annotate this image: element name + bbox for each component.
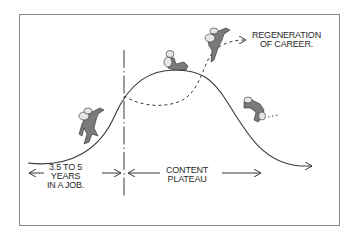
regeneration-dashed-path [124,40,246,105]
regeneration-label: REGENERATION OF CAREER. [252,31,321,49]
falling-trail [268,115,278,117]
plateau-label: CONTENT PLATEAU [166,166,208,184]
climber-resting-icon [164,51,188,71]
years-label: 3.5 TO 5 YEARS IN A JOB. [47,163,84,190]
climber-falling-icon [244,97,266,122]
climber-leaping-icon [205,28,230,62]
career-bell-curve [28,70,312,166]
